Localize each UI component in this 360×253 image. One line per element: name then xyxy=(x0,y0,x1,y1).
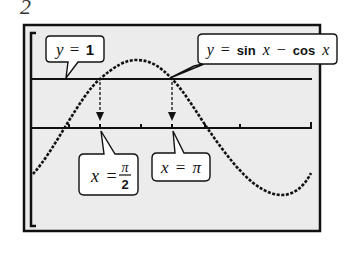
svg-text:y = sin x: y = sin x − cos x xyxy=(205,41,330,59)
svg-text:π: π xyxy=(121,160,129,175)
svg-text:x = π: x = π xyxy=(160,158,202,177)
label-y: y xyxy=(54,40,64,59)
calculator-graph-screen: y = 1 y = sin x − cos x x = π 2 x xyxy=(0,0,360,253)
svg-text:y = 1: y = 1 xyxy=(54,40,94,59)
svg-text:2: 2 xyxy=(121,177,128,192)
svg-text:x =: x = xyxy=(90,166,117,186)
